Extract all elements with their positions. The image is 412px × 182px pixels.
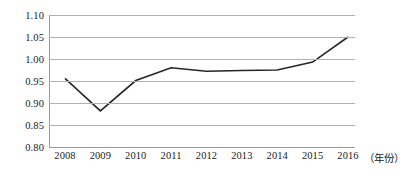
y-tick-label: 0.85	[25, 120, 44, 131]
line-series-path	[65, 37, 348, 111]
gridline-y-1.10	[49, 15, 355, 16]
y-tick-label: 1.05	[25, 32, 44, 43]
y-tick-label: 0.95	[25, 76, 44, 87]
x-tick-label: 2015	[302, 150, 323, 161]
x-axis-tick-labels: 200820092010201120122013201420152016	[0, 150, 412, 166]
chart-figure: 0.800.850.900.951.001.051.10 20082009201…	[0, 0, 412, 182]
y-tick-label: 1.10	[25, 10, 44, 21]
gridline-y-0.85	[49, 125, 355, 126]
x-axis-unit-label: （年份）	[364, 150, 404, 165]
plot-area	[49, 15, 355, 147]
x-tick-label: 2016	[337, 150, 358, 161]
gridline-y-0.95	[49, 81, 355, 82]
x-tick-label: 2011	[161, 150, 182, 161]
y-tick-label: 0.90	[25, 98, 44, 109]
x-tick-label: 2013	[231, 150, 252, 161]
x-tick-label: 2014	[267, 150, 288, 161]
gridline-y-1.05	[49, 37, 355, 38]
x-tick-label: 2010	[125, 150, 146, 161]
x-tick-label: 2008	[54, 150, 75, 161]
x-tick-label: 2012	[196, 150, 217, 161]
y-axis-tick-labels: 0.800.850.900.951.001.051.10	[0, 15, 44, 147]
y-tick-label: 1.00	[25, 54, 44, 65]
x-tick-label: 2009	[90, 150, 111, 161]
gridline-y-0.90	[49, 103, 355, 104]
gridline-y-1.00	[49, 59, 355, 60]
gridline-y-0.80	[49, 147, 355, 148]
